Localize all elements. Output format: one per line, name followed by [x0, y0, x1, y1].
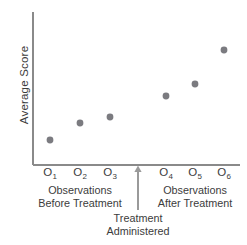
data-point — [107, 114, 114, 121]
group-label-after-line1: Observations — [163, 184, 227, 196]
treatment-caption-line2: Administered — [73, 225, 203, 238]
x-tick-label-o6: O6 — [211, 166, 237, 180]
x-tick-subscript: 3 — [113, 172, 117, 181]
x-tick-label-o5: O5 — [182, 166, 208, 180]
x-tick-base: O — [73, 166, 82, 178]
chart-figure: Average Score O1 O2 O3 O4 O5 O6 Observat… — [0, 0, 247, 245]
x-tick-subscript: 1 — [53, 172, 57, 181]
x-tick-label-o4: O4 — [153, 166, 179, 180]
x-tick-base: O — [188, 166, 197, 178]
group-label-before-line1: Observations — [48, 184, 112, 196]
group-label-after-line2: After Treatment — [135, 197, 247, 210]
x-tick-label-o2: O2 — [67, 166, 93, 180]
treatment-caption-line1: Treatment — [114, 212, 163, 224]
x-tick-label-o1: O1 — [37, 166, 63, 180]
data-point — [47, 137, 54, 144]
x-tick-subscript: 5 — [198, 172, 202, 181]
y-axis-label: Average Score — [18, 10, 32, 160]
x-tick-base: O — [43, 166, 52, 178]
data-point — [163, 93, 170, 100]
x-tick-base: O — [217, 166, 226, 178]
treatment-arrow-head — [134, 166, 141, 173]
x-tick-subscript: 6 — [227, 172, 231, 181]
data-point — [77, 120, 84, 127]
group-label-before-line2: Before Treatment — [20, 197, 140, 210]
treatment-administered-caption: Treatment Administered — [73, 212, 203, 237]
x-tick-label-o3: O3 — [97, 166, 123, 180]
group-label-before-treatment: Observations Before Treatment — [20, 184, 140, 209]
x-tick-base: O — [103, 166, 112, 178]
x-tick-subscript: 2 — [83, 172, 87, 181]
data-point — [221, 47, 228, 54]
data-point — [192, 81, 199, 88]
x-tick-subscript: 4 — [169, 172, 173, 181]
group-label-after-treatment: Observations After Treatment — [135, 184, 247, 209]
x-tick-base: O — [159, 166, 168, 178]
